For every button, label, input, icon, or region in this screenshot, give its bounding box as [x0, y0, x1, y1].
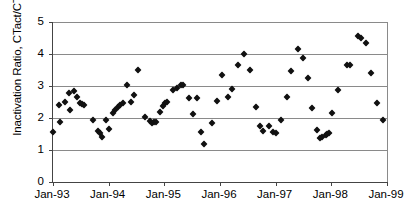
y-tick-label: 1 [30, 144, 44, 156]
x-tick-mark [276, 182, 277, 186]
data-point [260, 128, 267, 135]
data-point [209, 120, 216, 127]
y-tick-mark [49, 150, 53, 151]
data-point [362, 40, 369, 47]
data-point [57, 118, 64, 125]
x-tick-mark [109, 182, 110, 186]
x-tick-mark [387, 182, 388, 186]
data-point [252, 104, 259, 111]
data-point [198, 128, 205, 135]
plot-right-border [387, 22, 388, 182]
data-point [98, 133, 105, 140]
data-point [309, 105, 316, 112]
x-tick-label: Jan-97 [257, 188, 292, 200]
y-tick-mark [49, 86, 53, 87]
x-tick-label: Jan-98 [313, 188, 348, 200]
data-point [66, 106, 73, 113]
data-point [190, 111, 197, 118]
data-point [368, 69, 375, 76]
data-point [131, 91, 138, 98]
plot-area [52, 22, 387, 183]
data-point [214, 97, 221, 104]
gridline [53, 54, 387, 55]
data-point [49, 129, 56, 136]
data-point [334, 87, 341, 94]
data-point [283, 93, 290, 100]
data-point [218, 72, 225, 79]
x-tick-label: Jan-94 [90, 188, 125, 200]
y-tick-mark [49, 22, 53, 23]
scatter-chart: Inactivation Ratio, CTact/CTreq 012345 J… [0, 0, 417, 216]
data-point [105, 125, 112, 132]
data-point [123, 81, 130, 88]
data-point [288, 67, 295, 74]
y-tick-mark [49, 118, 53, 119]
y-tick-label: 0 [30, 176, 44, 188]
x-tick-mark [331, 182, 332, 186]
data-point [241, 50, 248, 57]
y-tick-label: 5 [30, 16, 44, 28]
data-point [201, 140, 208, 147]
data-point [193, 95, 200, 102]
data-point [134, 67, 141, 74]
data-point [185, 94, 192, 101]
x-tick-label: Jan-95 [146, 188, 181, 200]
y-tick-mark [49, 54, 53, 55]
data-point [294, 46, 301, 53]
data-point [313, 126, 320, 133]
gridline [53, 22, 387, 23]
data-point [235, 61, 242, 68]
data-point [304, 75, 311, 82]
y-tick-label: 4 [30, 48, 44, 60]
x-tick-label: Jan-96 [201, 188, 236, 200]
y-tick-label: 2 [30, 112, 44, 124]
y-axis-tick-labels: 012345 [28, 0, 44, 216]
y-axis-title: Inactivation Ratio, CTact/CTreq [11, 0, 23, 153]
data-point [373, 99, 380, 106]
x-tick-mark [220, 182, 221, 186]
y-tick-label: 3 [30, 80, 44, 92]
data-point [127, 98, 134, 105]
x-tick-label: Jan-93 [34, 188, 69, 200]
x-tick-mark [164, 182, 165, 186]
gridline [53, 150, 387, 151]
data-point [224, 93, 231, 100]
x-tick-label: Jan-99 [368, 188, 403, 200]
data-point [299, 54, 306, 61]
data-point [329, 110, 336, 117]
data-point [272, 130, 279, 137]
x-tick-mark [53, 182, 54, 186]
data-point [247, 67, 254, 74]
